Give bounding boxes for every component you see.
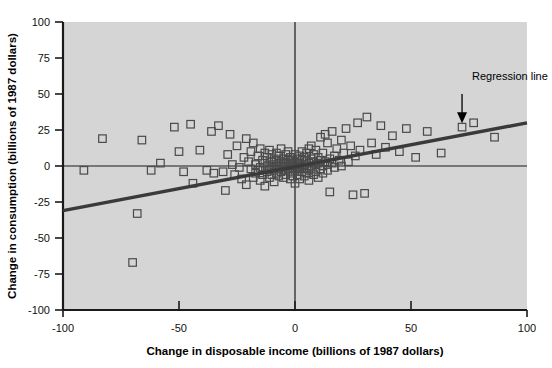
x-axis-tick-labels: -100-50050100	[52, 322, 536, 334]
y-tick-label: 75	[38, 52, 50, 64]
y-tick-label: -50	[34, 232, 50, 244]
y-axis-ticks	[55, 22, 63, 310]
y-tick-label: 50	[38, 88, 50, 100]
x-tick-label: -100	[52, 322, 74, 334]
y-tick-label: 100	[32, 16, 50, 28]
y-tick-label: -75	[34, 268, 50, 280]
y-axis-tick-labels: -100-75-50-250255075100	[28, 16, 50, 316]
y-axis-title: Change in consumption (billions of 1987 …	[6, 33, 18, 299]
regression-line-label: Regression line	[472, 70, 548, 82]
y-tick-label: 25	[38, 124, 50, 136]
x-tick-label: -50	[171, 322, 187, 334]
y-tick-label: -25	[34, 196, 50, 208]
chart-canvas: -100-75-50-250255075100 -100-50050100 Re…	[0, 0, 552, 368]
y-tick-label: 0	[44, 160, 50, 172]
scatter-plot-figure: -100-75-50-250255075100 -100-50050100 Re…	[0, 0, 552, 368]
x-tick-label: 100	[518, 322, 536, 334]
x-axis-title: Change in disposable income (billions of…	[146, 345, 443, 357]
y-tick-label: -100	[28, 304, 50, 316]
x-tick-label: 0	[292, 322, 298, 334]
x-tick-label: 50	[405, 322, 417, 334]
